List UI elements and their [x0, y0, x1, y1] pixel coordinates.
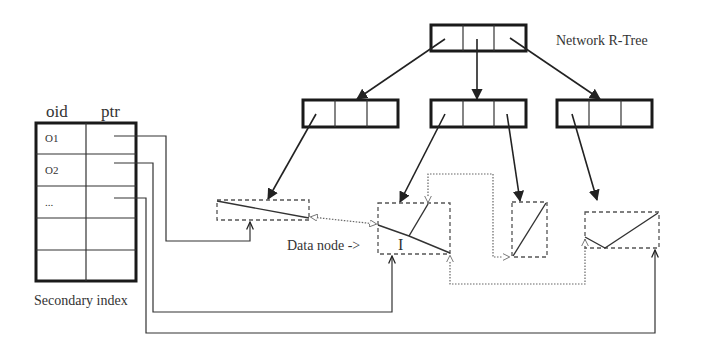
- rtree-node-left: [303, 100, 398, 127]
- data-node-2: I: [378, 203, 450, 254]
- secondary-index-table: oid ptr O1 O2 ... Secondary index: [34, 102, 136, 308]
- pointer-routes: [114, 136, 655, 333]
- ptr-header: ptr: [101, 102, 120, 121]
- oid-header: oid: [46, 102, 68, 121]
- adjacency-links: [311, 174, 585, 284]
- segment-label: I: [398, 236, 403, 253]
- row-oid-3: ...: [45, 196, 54, 208]
- data-node-1: [217, 200, 309, 220]
- rtree-node-middle: [431, 100, 526, 127]
- data-node-4: [585, 212, 659, 248]
- diagram-title: Network R-Tree: [556, 33, 648, 48]
- data-node-3: [512, 202, 547, 257]
- row-oid-1: O1: [45, 132, 58, 144]
- rtree-node-right: [557, 100, 652, 127]
- secondary-index-caption: Secondary index: [34, 293, 128, 308]
- data-node-label: Data node ->: [287, 238, 360, 253]
- row-oid-2: O2: [45, 164, 58, 176]
- rtree-root-node: [431, 25, 526, 51]
- network-rtree-diagram: Network R-Tree I: [0, 0, 701, 352]
